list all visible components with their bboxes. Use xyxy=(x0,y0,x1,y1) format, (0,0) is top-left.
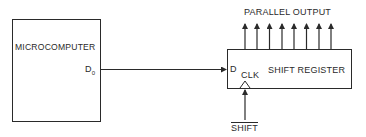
diagram-canvas: MICROCOMPUTER D0 PARALLEL OUTPUT D CLK S… xyxy=(0,0,366,137)
microcomputer-label: MICROCOMPUTER xyxy=(15,43,95,52)
parallel-output-arrows xyxy=(245,24,331,49)
d0-pin-label: D0 xyxy=(85,65,95,76)
d0-pin-subscript: 0 xyxy=(92,70,96,76)
clock-input-label: CLK xyxy=(241,71,259,80)
shift-signal-label: SHIFT xyxy=(231,124,258,133)
data-input-label: D xyxy=(230,65,237,74)
shift-register-label: SHIFT REGISTER xyxy=(268,66,345,75)
clock-triangle-icon xyxy=(240,81,250,88)
d0-pin-letter: D xyxy=(85,64,92,74)
parallel-output-label: PARALLEL OUTPUT xyxy=(244,8,331,17)
